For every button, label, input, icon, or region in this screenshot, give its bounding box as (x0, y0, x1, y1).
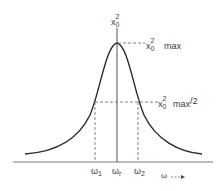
peak-label-sub: 0 (151, 45, 155, 52)
half-max-label-suffix: max (173, 99, 190, 109)
half-max-label: x20 max/2 (158, 98, 198, 110)
tick-omega-r: ωr (112, 167, 121, 176)
x-axis-label-text: ω (161, 171, 167, 180)
half-max-label-tail: /2 (190, 96, 198, 106)
half-max-label-sub: 0 (163, 103, 167, 110)
x-axis-label: ω (161, 172, 167, 180)
tick-omega-1-base: ω (91, 166, 98, 176)
tick-omega-r-sub: r (119, 170, 121, 177)
peak-label-sup: 2 (151, 37, 155, 44)
tick-omega-2-base: ω (134, 166, 141, 176)
omega-arrow-icon (181, 175, 185, 179)
y-axis-label-sup: 2 (116, 13, 120, 20)
tick-omega-2: ω2 (134, 167, 145, 176)
y-axis-label: x20 (111, 16, 122, 28)
tick-omega-r-base: ω (112, 166, 119, 176)
tick-omega-1-sub: 1 (98, 170, 102, 177)
peak-label: x20 max (146, 40, 181, 52)
resonance-diagram (0, 0, 220, 191)
y-axis-label-sub: 0 (116, 21, 120, 28)
half-max-label-sup: 2 (163, 95, 167, 102)
tick-omega-1: ω1 (91, 167, 102, 176)
peak-label-suffix: max (164, 41, 181, 51)
tick-omega-2-sub: 2 (141, 170, 145, 177)
